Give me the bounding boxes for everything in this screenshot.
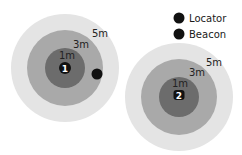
zone-2-id: 2 (176, 91, 182, 101)
zone-1-label-3m: 3m (73, 39, 89, 50)
zone-1-beacon-icon (92, 69, 103, 80)
zone-2-label-3m: 3m (189, 67, 205, 78)
legend-beacon-icon (174, 29, 185, 40)
zone-1: 5m 3m 1m 1 (11, 14, 119, 122)
legend-beacon-label: Beacon (189, 29, 226, 40)
zone-1-label-5m: 5m (92, 28, 108, 39)
legend-locator-label: Locator (189, 13, 227, 24)
zone-2: 5m 3m 1m 2 (125, 43, 233, 151)
zone-2-label-5m: 5m (206, 57, 222, 68)
zone-1-id: 1 (62, 64, 68, 74)
zone-1-label-1m: 1m (59, 50, 75, 61)
legend-locator-icon (174, 13, 185, 24)
legend: Locator Beacon (174, 13, 228, 41)
proximity-diagram: 5m 3m 1m 1 5m 3m 1m 2 Locator Beacon (0, 0, 242, 155)
zone-2-label-1m: 1m (172, 78, 188, 89)
